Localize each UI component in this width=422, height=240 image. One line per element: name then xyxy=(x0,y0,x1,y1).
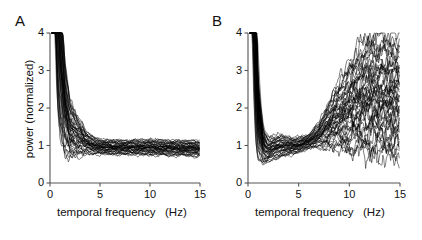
trace-bundle xyxy=(52,33,199,162)
y-tick-label: 0 xyxy=(30,176,44,188)
x-tick-label: 5 xyxy=(90,188,110,200)
x-tick-label: 0 xyxy=(238,188,258,200)
trace-bundle xyxy=(250,33,399,169)
y-tick-label: 2 xyxy=(228,101,242,113)
x-tick-label: 0 xyxy=(40,188,60,200)
x-tick-label: 5 xyxy=(289,188,309,200)
y-tick-label: 0 xyxy=(228,176,242,188)
y-tick-label: 4 xyxy=(30,26,44,38)
panel-label-b: B xyxy=(212,12,222,29)
panel-a-plot xyxy=(47,33,201,187)
x-tick-label: 10 xyxy=(339,188,359,200)
x-tick-label: 10 xyxy=(140,188,160,200)
panel-label-a: A xyxy=(15,12,25,29)
x-tick-label: 15 xyxy=(390,188,410,200)
y-tick-label: 1 xyxy=(228,139,242,151)
y-tick-label: 1 xyxy=(30,139,44,151)
y-tick-label: 3 xyxy=(228,64,242,76)
x-tick-label: 15 xyxy=(190,188,210,200)
y-tick-label: 3 xyxy=(30,64,44,76)
y-tick-label: 2 xyxy=(30,101,44,113)
spectra-figure xyxy=(0,0,422,240)
panel-b-plot xyxy=(245,33,401,187)
x-axis-title-b: temporal frequency (Hz) xyxy=(255,206,385,218)
x-axis-title-a: temporal frequency (Hz) xyxy=(57,206,187,218)
y-tick-label: 4 xyxy=(228,26,242,38)
